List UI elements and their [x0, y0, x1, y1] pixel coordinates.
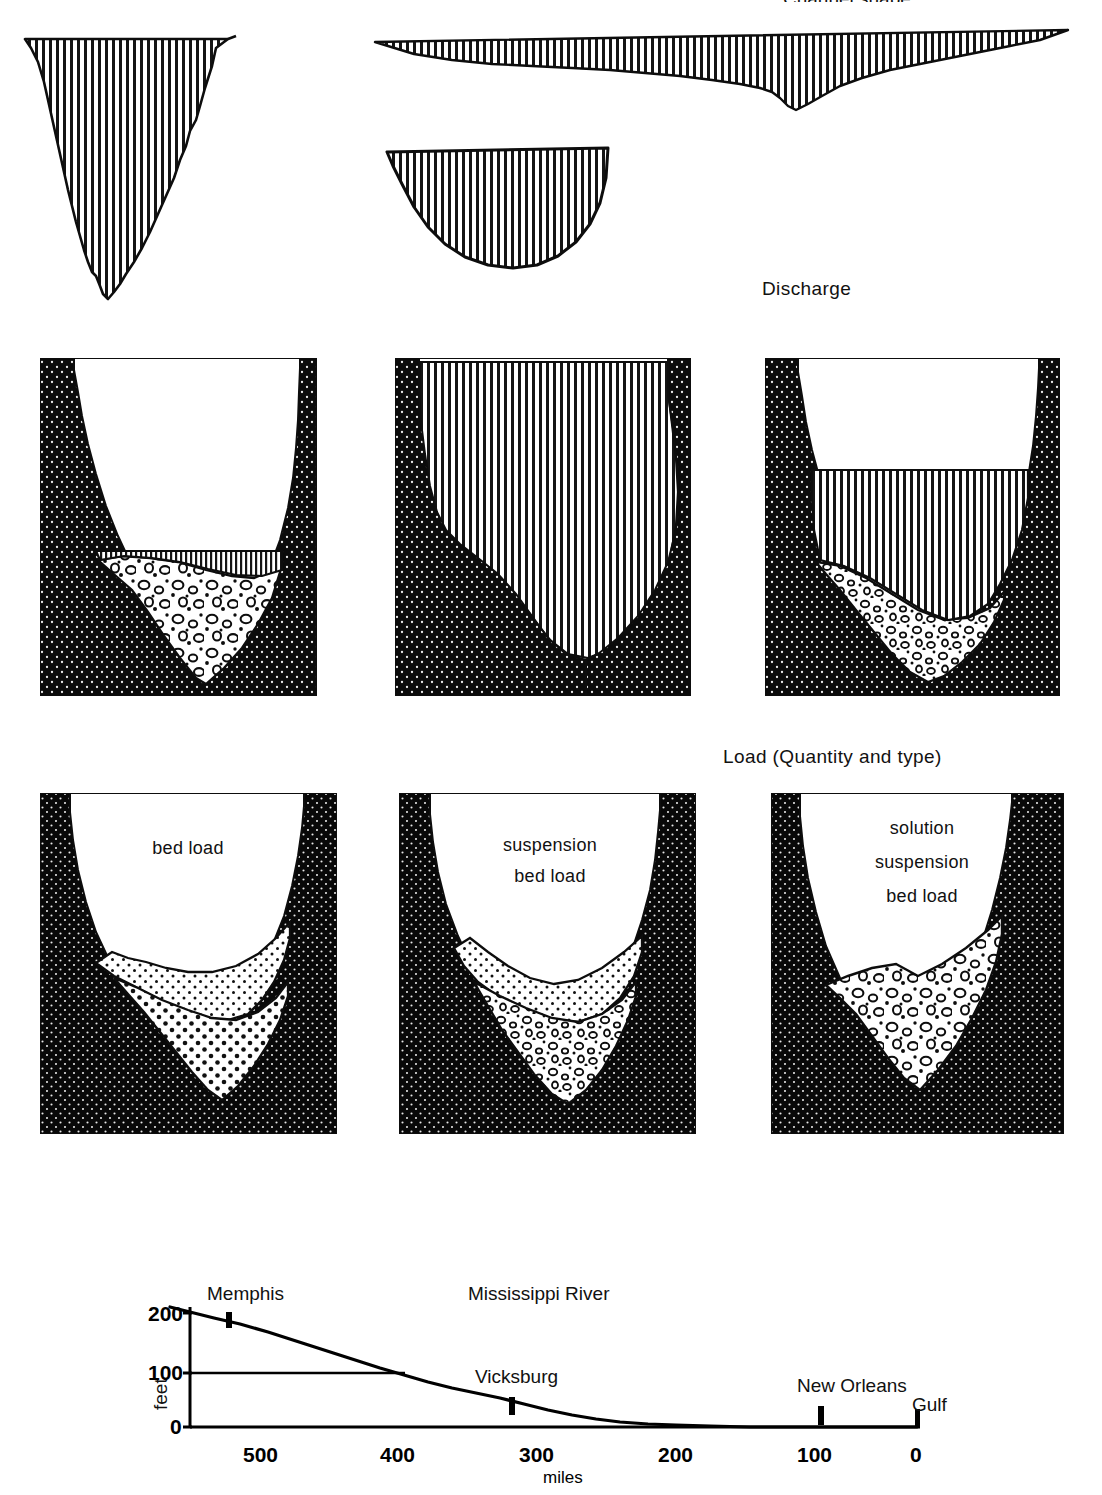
x-tick-300: 300	[519, 1443, 554, 1467]
section-label-load: Load (Quantity and type)	[723, 746, 942, 768]
river-diagram-figure: Channel shape Discharge Load (Quantity a…	[0, 0, 1102, 1495]
x-tick-400: 400	[380, 1443, 415, 1467]
wide-shallow-channel	[375, 30, 1068, 110]
x-tick-500: 500	[243, 1443, 278, 1467]
load-label-lower-solution: solution	[842, 818, 1002, 839]
annotation-vicksburg: Vicksburg	[475, 1366, 558, 1388]
section-label-discharge: Discharge	[762, 278, 851, 300]
channel-shape-row	[25, 30, 1068, 299]
tick-memphis	[226, 1312, 232, 1328]
tick-new-orleans	[818, 1406, 824, 1425]
channel-shape-title: Channel shape	[783, 0, 953, 2]
load-label-headwaters-bed-load: bed load	[108, 838, 268, 859]
y-tick-100: 100	[148, 1361, 183, 1385]
tick-vicksburg	[509, 1397, 515, 1415]
narrow-v-channel	[25, 36, 236, 299]
load-label-midcourse-suspension: suspension	[470, 835, 630, 856]
load-label-lower-bed-load: bed load	[842, 886, 1002, 907]
discharge-panel-low	[40, 358, 317, 696]
chart-title: Mississippi River	[468, 1283, 609, 1305]
discharge-panel-medium	[765, 358, 1060, 696]
y-tick-200: 200	[148, 1302, 183, 1326]
load-panel-lower	[771, 793, 1064, 1134]
annotation-gulf: Gulf	[912, 1394, 947, 1416]
semicircular-channel	[387, 148, 608, 268]
load-label-midcourse-bed-load: bed load	[470, 866, 630, 887]
x-tick-200: 200	[658, 1443, 693, 1467]
x-axis-title: miles	[543, 1468, 583, 1488]
x-tick-100: 100	[797, 1443, 832, 1467]
y-tick-0: 0	[170, 1415, 182, 1439]
annotation-memphis: Memphis	[207, 1283, 284, 1305]
x-tick-0: 0	[910, 1443, 922, 1467]
discharge-panel-high	[395, 358, 691, 696]
discharge-row	[40, 358, 1060, 696]
annotation-new-orleans: New Orleans	[797, 1375, 907, 1397]
load-label-lower-suspension: suspension	[842, 852, 1002, 873]
